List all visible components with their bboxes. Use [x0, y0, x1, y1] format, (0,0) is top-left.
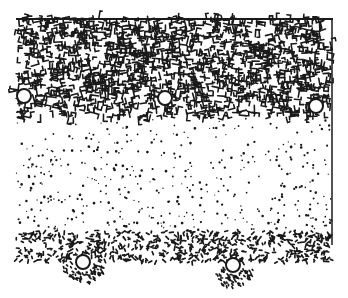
lower-circle-marker [226, 258, 240, 272]
dense-maze-layer [9, 11, 336, 125]
stippled-cross-section-figure [0, 0, 348, 298]
dense-dot-layer [15, 230, 333, 288]
upper-circle-marker [158, 91, 172, 105]
sparse-dot-layer [16, 118, 332, 231]
upper-circle-marker [309, 99, 323, 113]
lower-circle-marker [76, 255, 90, 269]
upper-circle-marker [17, 89, 31, 103]
